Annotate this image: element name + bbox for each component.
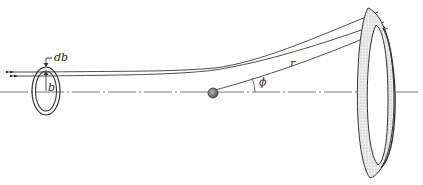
label-db: db (54, 51, 68, 64)
phi-arc (252, 78, 255, 92)
db-arrow-icon (44, 63, 49, 67)
label-r: r (290, 57, 296, 70)
arrow-icon (14, 75, 18, 78)
label-phi: ϕ (259, 76, 267, 89)
detector-ring (357, 8, 395, 178)
arrow-icon (10, 71, 14, 74)
scattering-center (208, 88, 218, 98)
scattering-diagram: b db r ϕ (0, 0, 423, 185)
ray-dot (6, 71, 8, 73)
label-b: b (48, 81, 55, 94)
scattered-rays (46, 12, 388, 90)
ray-dot (10, 75, 12, 77)
